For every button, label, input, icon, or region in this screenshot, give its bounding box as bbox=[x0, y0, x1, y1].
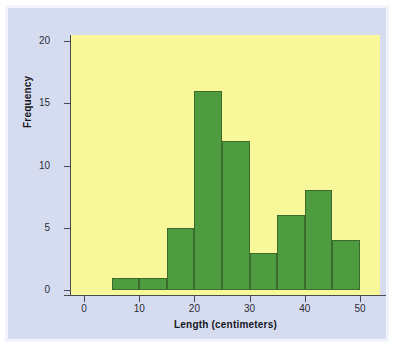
figure-panel: 05101520 01020304050 Frequency Length (c… bbox=[5, 5, 389, 342]
y-axis-line bbox=[70, 35, 71, 296]
histogram-bar bbox=[222, 141, 250, 290]
x-tick-label: 40 bbox=[285, 304, 325, 314]
x-tick-mark bbox=[305, 296, 306, 302]
histogram-figure: 05101520 01020304050 Frequency Length (c… bbox=[0, 0, 394, 347]
x-tick-mark bbox=[360, 296, 361, 302]
y-tick-mark bbox=[64, 166, 70, 167]
x-tick-label: 0 bbox=[64, 304, 104, 314]
y-tick-label: 0 bbox=[10, 285, 50, 295]
x-tick-label: 20 bbox=[174, 304, 214, 314]
histogram-bar bbox=[112, 278, 140, 290]
y-axis-title: Frequency bbox=[22, 76, 33, 128]
x-tick-mark bbox=[250, 296, 251, 302]
x-tick-label: 50 bbox=[340, 304, 380, 314]
histogram-bar bbox=[167, 228, 195, 290]
y-tick-mark bbox=[64, 228, 70, 229]
histogram-bar bbox=[139, 278, 167, 290]
x-tick-mark bbox=[84, 296, 85, 302]
x-tick-label: 10 bbox=[119, 304, 159, 314]
y-tick-label: 5 bbox=[10, 223, 50, 233]
x-tick-mark bbox=[139, 296, 140, 302]
y-tick-label: 10 bbox=[10, 161, 50, 171]
y-tick-mark bbox=[64, 41, 70, 42]
y-tick-label: 20 bbox=[10, 36, 50, 46]
histogram-bar bbox=[332, 240, 360, 290]
x-axis-title: Length (centimeters) bbox=[71, 319, 380, 330]
x-axis-line bbox=[64, 295, 386, 296]
histogram-bar bbox=[250, 253, 278, 290]
x-tick-mark bbox=[194, 296, 195, 302]
histogram-bar bbox=[277, 215, 305, 290]
histogram-bar bbox=[194, 91, 222, 290]
y-tick-mark bbox=[64, 290, 70, 291]
y-tick-mark bbox=[64, 103, 70, 104]
histogram-bar bbox=[305, 190, 333, 290]
x-tick-label: 30 bbox=[230, 304, 270, 314]
